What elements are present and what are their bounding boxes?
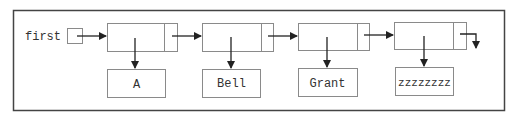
head-label: first [25, 30, 61, 44]
null-terminator-arrow [460, 34, 476, 48]
value-box-4: zzzzzzzz [396, 68, 454, 96]
svg-text:A: A [133, 78, 141, 92]
value-box-2: Bell [203, 70, 261, 98]
list-node-3 [299, 24, 394, 68]
svg-text:zzzzzzzz: zzzzzzzz [398, 77, 451, 89]
svg-text:Grant: Grant [309, 77, 345, 91]
linked-list-diagram: first A Bell [0, 0, 522, 116]
value-box-1: A [108, 70, 166, 98]
list-node-2 [203, 24, 298, 69]
list-node-4 [395, 23, 477, 67]
svg-text:Bell: Bell [217, 77, 246, 91]
list-node-1 [108, 24, 202, 69]
value-box-3: Grant [299, 69, 358, 97]
